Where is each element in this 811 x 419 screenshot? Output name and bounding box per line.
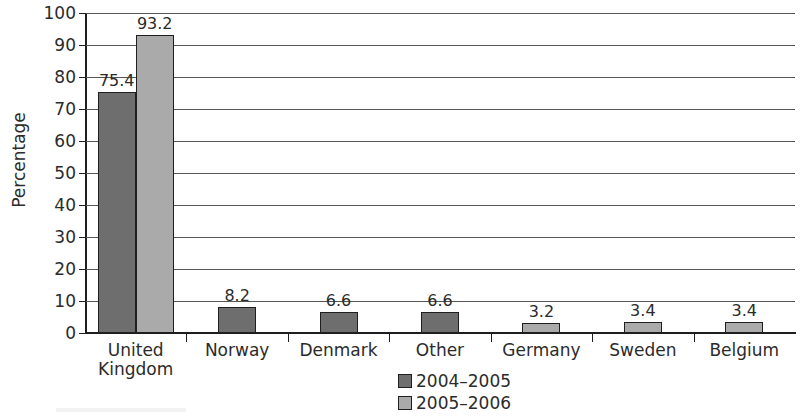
bar-chart: Percentage 75.493.28.26.66.63.23.43.4 01… <box>0 0 811 419</box>
bar-value-label: 8.2 <box>208 288 266 304</box>
x-axis-category-label: Norway <box>186 341 287 360</box>
y-axis-tick-label: 20 <box>38 261 76 278</box>
y-axis-tick-mark <box>79 13 86 14</box>
y-axis-tick-mark <box>79 237 86 238</box>
category-label-line: Sweden <box>592 341 693 360</box>
legend-item: 2004–2005 <box>398 370 511 392</box>
bar-value-label: 3.2 <box>512 304 570 320</box>
y-axis-tick-mark <box>79 109 86 110</box>
bar <box>624 322 662 333</box>
legend-item-label: 2004–2005 <box>416 373 511 390</box>
y-axis-tick-label: 90 <box>38 37 76 54</box>
bar <box>320 312 358 333</box>
y-axis-tick-mark <box>79 77 86 78</box>
y-axis-tick-mark <box>79 269 86 270</box>
bar <box>522 323 560 333</box>
gridline <box>85 173 795 174</box>
legend: 2004–2005 2005–2006 <box>398 370 511 414</box>
legend-swatch-icon <box>398 374 412 388</box>
legend-item-label: 2005–2006 <box>416 395 511 412</box>
y-axis-tick-label: 70 <box>38 101 76 118</box>
bar <box>136 35 174 333</box>
bar-value-label: 3.4 <box>715 303 773 319</box>
category-label-line: Other <box>389 341 490 360</box>
category-label-line: Germany <box>491 341 592 360</box>
y-axis-title: Percentage <box>9 65 29 255</box>
y-axis-tick-label: 80 <box>38 69 76 86</box>
y-axis-tick-mark <box>79 301 86 302</box>
y-axis-tick-label: 50 <box>38 165 76 182</box>
y-axis-tick-mark <box>79 333 86 334</box>
x-axis-category-label: Denmark <box>288 341 389 360</box>
y-axis-tick-label: 100 <box>38 5 76 22</box>
gridline <box>85 205 795 206</box>
bar-value-label: 3.4 <box>614 303 672 319</box>
gridline <box>85 13 795 14</box>
category-label-line: Kingdom <box>85 360 186 379</box>
y-axis-tick-label: 0 <box>38 325 76 342</box>
x-axis-category-label: Other <box>389 341 490 360</box>
y-axis-tick-mark <box>79 173 86 174</box>
x-axis-category-label: UnitedKingdom <box>85 341 186 379</box>
x-axis-category-label: Belgium <box>694 341 795 360</box>
gridline <box>85 45 795 46</box>
bar-value-label: 6.6 <box>411 293 469 309</box>
bar-value-label: 93.2 <box>126 16 184 32</box>
gridline <box>85 237 795 238</box>
x-axis-category-label: Germany <box>491 341 592 360</box>
category-label-line: Norway <box>186 341 287 360</box>
plot-area: 75.493.28.26.66.63.23.43.4 <box>85 13 795 333</box>
y-axis-tick-label: 10 <box>38 293 76 310</box>
y-axis-tick-label: 40 <box>38 197 76 214</box>
bar <box>98 92 136 333</box>
bar <box>218 307 256 333</box>
y-axis-tick-label: 60 <box>38 133 76 150</box>
bar <box>421 312 459 333</box>
category-label-line: Belgium <box>694 341 795 360</box>
y-axis-tick-mark <box>79 205 86 206</box>
gridline <box>85 77 795 78</box>
y-axis-tick-mark <box>79 45 86 46</box>
legend-item: 2005–2006 <box>398 392 511 414</box>
bar-value-label: 6.6 <box>310 293 368 309</box>
category-label-line: United <box>85 341 186 360</box>
scan-artifact <box>56 408 186 412</box>
category-label-line: Denmark <box>288 341 389 360</box>
gridline <box>85 269 795 270</box>
x-axis-category-label: Sweden <box>592 341 693 360</box>
gridline <box>85 141 795 142</box>
bar <box>725 322 763 333</box>
legend-swatch-icon <box>398 396 412 410</box>
y-axis-tick-label: 30 <box>38 229 76 246</box>
gridline <box>85 109 795 110</box>
y-axis-tick-mark <box>79 141 86 142</box>
